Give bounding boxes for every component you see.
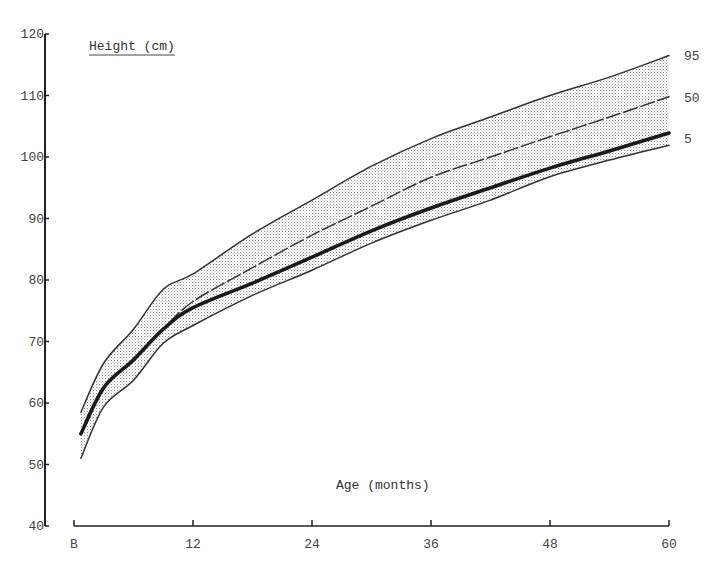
- x-tick-label: 60: [661, 537, 677, 552]
- y-tick-label: 50: [28, 458, 44, 473]
- x-tick-label: 48: [542, 537, 558, 552]
- growth-chart: 405060708090100110120 B1224364860 95505 …: [0, 0, 718, 573]
- x-axis-label: Age (months): [336, 478, 430, 493]
- percentile-label: 95: [684, 49, 700, 64]
- y-tick-label: 60: [28, 396, 44, 411]
- series-labels: 95505: [684, 49, 700, 147]
- y-tick-label: 110: [21, 89, 44, 104]
- x-tick-label: B: [70, 537, 78, 552]
- y-tick-label: 90: [28, 212, 44, 227]
- y-tick-label: 80: [28, 273, 44, 288]
- y-axis: 405060708090100110120: [21, 27, 49, 534]
- x-axis: B1224364860: [70, 520, 677, 552]
- x-tick-label: 36: [423, 537, 439, 552]
- y-tick-label: 40: [28, 519, 44, 534]
- x-tick-label: 24: [304, 537, 320, 552]
- chart-title: Height (cm): [89, 39, 175, 54]
- y-tick-label: 100: [21, 150, 44, 165]
- band-area: [81, 56, 669, 459]
- percentile-label: 50: [684, 91, 700, 106]
- x-tick-label: 12: [185, 537, 201, 552]
- percentile-label: 5: [684, 132, 692, 147]
- y-tick-label: 120: [21, 27, 44, 42]
- y-tick-label: 70: [28, 335, 44, 350]
